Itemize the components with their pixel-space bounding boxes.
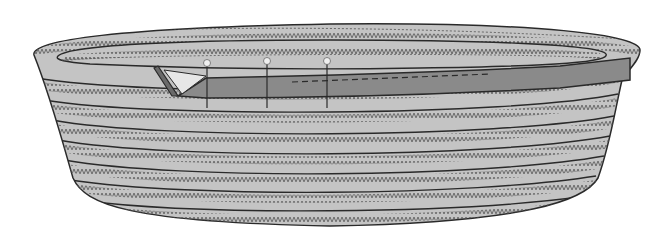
basket-illustration [0, 0, 648, 240]
basket-rim [57, 40, 606, 69]
illustration-canvas [0, 0, 648, 240]
